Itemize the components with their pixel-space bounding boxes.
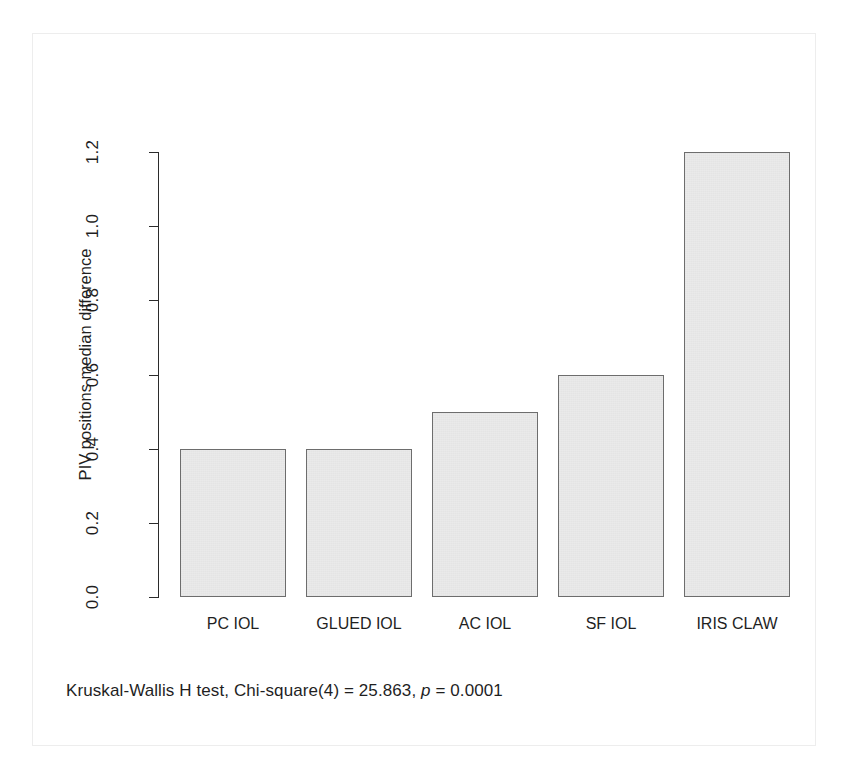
y-axis-title: PIV positions median difference [76,205,95,525]
y-axis-tick-label: 0.0 [83,567,103,627]
bar-texture [685,153,789,596]
y-axis-tick [149,152,159,153]
bar-texture [559,376,663,597]
y-axis-tick [149,597,159,598]
bar [558,375,664,598]
bar [180,449,286,597]
figure-page: 0.00.20.40.60.81.01.2 PIV positions medi… [0,0,847,782]
bar [432,412,538,597]
plot-area: 0.00.20.40.60.81.01.2 PIV positions medi… [0,0,847,782]
y-axis-tick [149,375,159,376]
chart-caption: Kruskal-Wallis H test, Chi-square(4) = 2… [66,681,503,701]
y-axis-tick [149,300,159,301]
y-axis-tick-label: 1.2 [83,122,103,182]
bar-texture [307,450,411,596]
bar-texture [433,413,537,596]
bar-texture [181,450,285,596]
caption-suffix: = 0.0001 [431,681,503,700]
caption-prefix: Kruskal-Wallis H test, Chi-square(4) = 2… [66,681,421,700]
caption-p-symbol: p [421,681,431,700]
x-axis-label: IRIS CLAW [657,615,817,633]
bar [306,449,412,597]
bar-chart-figure: 0.00.20.40.60.81.01.2 PIV positions medi… [0,0,847,782]
bar [684,152,790,597]
y-axis-tick [149,523,159,524]
y-axis-tick [149,449,159,450]
y-axis-tick [149,226,159,227]
